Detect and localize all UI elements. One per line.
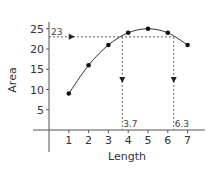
axes <box>33 22 205 152</box>
area-length-chart: 510152025 1234567 233.76.3 Area Length <box>0 0 221 171</box>
data-point <box>185 43 190 48</box>
y-tick-label: 15 <box>30 63 44 76</box>
x-tick-label: 5 <box>145 134 152 147</box>
x-tick-label: 1 <box>65 134 72 147</box>
annotation-label: 6.3 <box>175 119 189 129</box>
x-tick-label: 6 <box>164 134 171 147</box>
x-tick-label: 3 <box>105 134 112 147</box>
y-axis-label: Area <box>6 67 19 92</box>
arrow-right-icon <box>69 34 75 40</box>
annotation-label: 3.7 <box>123 119 137 129</box>
x-tick-label: 2 <box>85 134 92 147</box>
x-tick-label: 4 <box>125 134 132 147</box>
data-point <box>166 31 171 36</box>
y-tick-label: 20 <box>30 43 44 56</box>
arrow-down-icon <box>119 77 125 83</box>
y-tick-label: 25 <box>30 23 44 36</box>
y-tick-label: 5 <box>37 104 44 117</box>
x-ticks: 1234567 <box>65 130 191 147</box>
series-curve <box>69 29 188 94</box>
x-axis-label: Length <box>108 150 146 163</box>
data-point <box>67 91 72 96</box>
guide-lines: 233.76.3 <box>49 27 189 130</box>
y-ticks: 510152025 <box>30 23 49 117</box>
data-point <box>86 63 91 68</box>
y-tick-label: 10 <box>30 84 44 97</box>
data-point <box>126 31 131 36</box>
annotation-label: 23 <box>51 27 62 37</box>
arrow-down-icon <box>171 77 177 83</box>
data-point <box>146 26 151 31</box>
x-tick-label: 7 <box>184 134 191 147</box>
data-point <box>106 43 111 48</box>
